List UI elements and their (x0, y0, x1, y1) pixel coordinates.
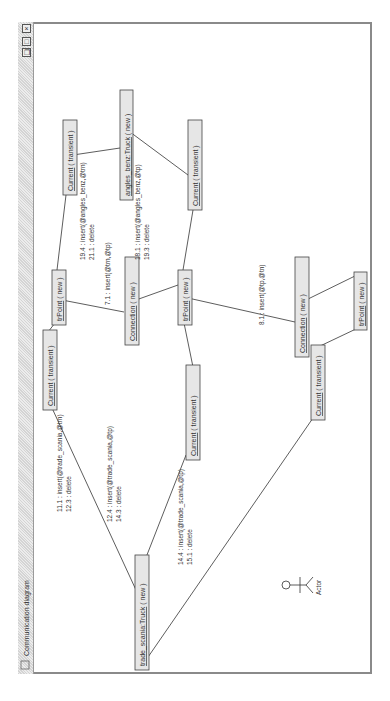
svg-text:12.3 : delete: 12.3 : delete (65, 476, 72, 512)
svg-text:14.3 : delete: 14.3 : delete (115, 486, 122, 522)
svg-text:Current ( transient ): Current ( transient ) (315, 355, 323, 416)
node-current-2[interactable]: Current ( transient ) (186, 365, 200, 460)
svg-text:19.3 : delete: 19.3 : delete (143, 224, 150, 260)
svg-text:12.4 : insert(@trade_scania,@t: 12.4 : insert(@trade_scania,@tp) (106, 426, 114, 522)
svg-text:15.1 : delete: 15.1 : delete (186, 529, 193, 565)
svg-text:trPoint ( new ): trPoint ( new ) (182, 277, 190, 321)
svg-text:trPoint ( new ): trPoint ( new ) (56, 277, 64, 321)
node-current-1[interactable]: Current ( transient ) (43, 330, 57, 410)
svg-text:19.4 : insert(@angles_benz,@tr: 19.4 : insert(@angles_benz,@trn) (79, 162, 87, 260)
node-connection-2[interactable]: Connection ( new ) (295, 257, 309, 357)
message-m3: 14.4 : insert(@trade_scania,@tp) 15.1 : … (177, 469, 193, 565)
diagram-canvas: Communication diagram trade_scania:Truck… (0, 0, 390, 701)
svg-text:7.1 : insert(@trn,@tp): 7.1 : insert(@trn,@tp) (104, 242, 112, 305)
svg-text:Current ( transient ): Current ( transient ) (67, 130, 75, 191)
actor-label: Actor (315, 579, 322, 595)
svg-text:Connection ( new ): Connection ( new ) (299, 294, 307, 353)
svg-text:21.1 : delete: 21.1 : delete (88, 224, 95, 260)
window-title: Communication diagram (23, 580, 31, 656)
svg-text:11.1 : insert(@trade_scania,@t: 11.1 : insert(@trade_scania,@trn) (56, 414, 64, 512)
message-m2: 12.4 : insert(@trade_scania,@tp) 14.3 : … (106, 426, 122, 522)
svg-text:Connection ( new ): Connection ( new ) (129, 282, 137, 341)
svg-text:14.4 : insert(@trade_scania,@t: 14.4 : insert(@trade_scania,@tp) (177, 469, 185, 565)
message-m7: 8.1 : insert(@tp,@tn) (258, 264, 266, 325)
svg-text:trPoint ( new ): trPoint ( new ) (358, 282, 366, 326)
message-m6: 18.1 : insert(@angles_benz,@tp) 19.3 : d… (134, 164, 150, 260)
node-trade-scania[interactable]: trade_scania:Truck ( new ) (135, 555, 149, 670)
node-current-3[interactable]: Current ( transient ) (311, 345, 325, 420)
node-connection-1[interactable]: Connection ( new ) (125, 257, 139, 345)
node-trpoint-3[interactable]: trPoint ( new ) (354, 272, 367, 330)
svg-text:18.1 : insert(@angles_benz,@tp: 18.1 : insert(@angles_benz,@tp) (134, 164, 142, 260)
node-trpoint-2[interactable]: trPoint ( new ) (178, 270, 192, 325)
svg-text:8.1 : insert(@tp,@tn): 8.1 : insert(@tp,@tn) (258, 264, 266, 325)
actor-icon (282, 577, 313, 593)
svg-text:trade_scania:Truck ( new ): trade_scania:Truck ( new ) (139, 583, 147, 666)
node-trpoint-1[interactable]: trPoint ( new ) (52, 270, 66, 325)
svg-text:Current ( transient ): Current ( transient ) (192, 145, 200, 206)
node-current-5[interactable]: Current ( transient ) (188, 120, 202, 210)
message-m1: 11.1 : insert(@trade_scania,@trn) 12.3 :… (56, 414, 72, 512)
svg-text:angles_benz:Truck ( new ): angles_benz:Truck ( new ) (124, 114, 132, 196)
svg-text:Current ( transient ): Current ( transient ) (47, 345, 55, 406)
node-current-4[interactable]: Current ( transient ) (63, 120, 77, 195)
message-m4: 19.4 : insert(@angles_benz,@trn) 21.1 : … (79, 162, 95, 260)
node-angles-benz[interactable]: angles_benz:Truck ( new ) (120, 90, 133, 200)
message-m5: 7.1 : insert(@trn,@tp) (104, 242, 112, 305)
diagram-icon (21, 661, 29, 669)
svg-text:Current ( transient ): Current ( transient ) (190, 395, 198, 456)
